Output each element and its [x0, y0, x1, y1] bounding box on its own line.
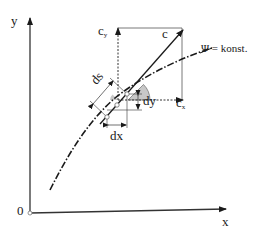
dy-label: dy — [143, 94, 156, 107]
point-2 — [115, 103, 119, 107]
x-axis — [30, 209, 226, 213]
y-axis-label: y — [11, 14, 18, 27]
origin-label: 0 — [17, 204, 24, 217]
dx-label: dx — [110, 129, 123, 142]
diagram-canvas — [0, 0, 259, 230]
c-label: c — [162, 27, 168, 40]
origin-point — [28, 211, 32, 215]
streamline-label: Ψ = konst. — [201, 43, 247, 54]
cx-label: cx — [176, 96, 185, 111]
point-3 — [125, 92, 129, 96]
streamline-curve — [50, 48, 212, 190]
x-axis-label: x — [222, 215, 229, 228]
point-1 — [105, 115, 109, 119]
cy-label: cy — [98, 24, 107, 39]
